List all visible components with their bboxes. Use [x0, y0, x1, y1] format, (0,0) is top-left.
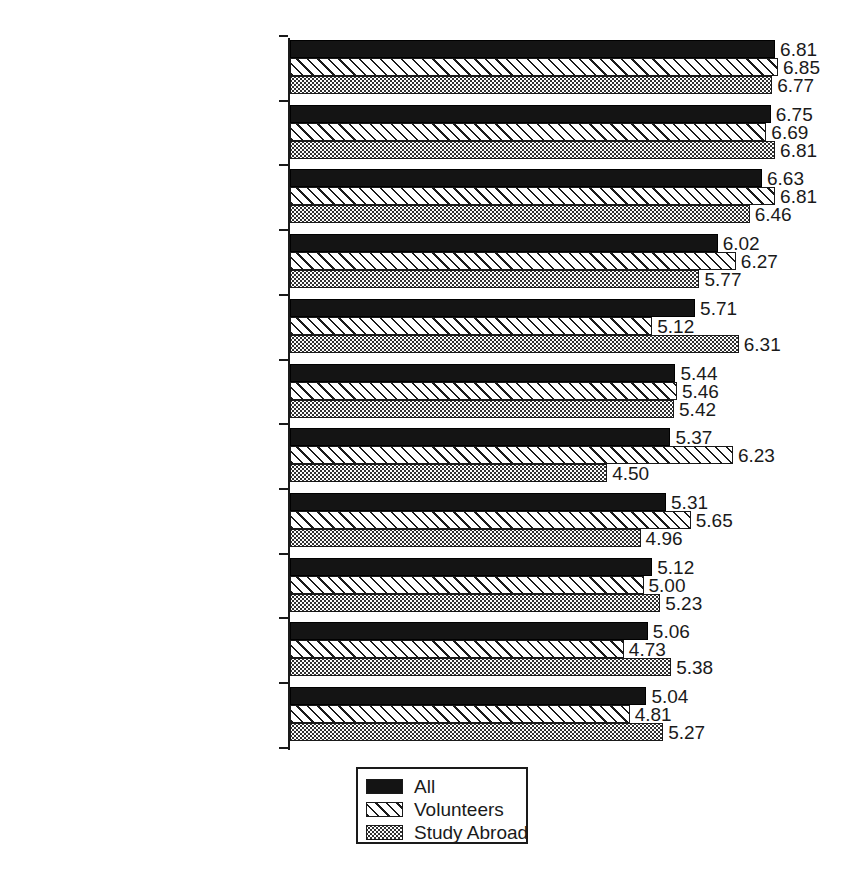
bar-row: 5.65	[290, 511, 862, 529]
bar-volunteers	[290, 187, 775, 205]
bar-row: 6.75	[290, 105, 862, 123]
bar-row: 5.44	[290, 364, 862, 382]
axis-tick	[279, 553, 288, 555]
bar-volunteers	[290, 576, 644, 594]
bar-study-abroad	[290, 141, 775, 159]
bar-value-label: 5.65	[691, 510, 733, 529]
bar-volunteers	[290, 317, 652, 335]
bar-group: To have new experiences6.816.856.77	[288, 40, 862, 94]
bar-group: To achieve over challenges5.064.735.38	[288, 622, 862, 676]
bar-row: 4.81	[290, 705, 862, 723]
legend-label: Volunteers	[414, 800, 504, 819]
bar-row: 6.46	[290, 205, 862, 223]
bar-study-abroad	[290, 335, 739, 353]
axis-tick	[279, 617, 288, 619]
axis-tick	[279, 423, 288, 425]
bar-chart: To have new experiences6.816.856.77To se…	[0, 0, 862, 884]
bar-study-abroad	[290, 594, 660, 612]
bar-value-label: 5.23	[660, 593, 702, 612]
bar-group: To escape from ordinary life5.125.005.23	[288, 558, 862, 612]
bar-all	[290, 622, 648, 640]
bar-row: 5.31	[290, 493, 862, 511]
bar-group: To develop skills5.044.815.27	[288, 687, 862, 741]
bar-study-abroad	[290, 464, 607, 482]
bar-value-label: 5.38	[671, 658, 713, 677]
bar-study-abroad	[290, 529, 641, 547]
bar-value-label: 4.96	[641, 528, 683, 547]
legend-label: Study Abroad	[414, 823, 528, 842]
plot-area: To have new experiences6.816.856.77To se…	[288, 38, 862, 750]
bar-volunteers	[290, 58, 778, 76]
bar-row: 5.12	[290, 317, 862, 335]
bar-all	[290, 687, 646, 705]
bar-row: 6.63	[290, 169, 862, 187]
bar-group: To 'grow' emotionally, spiritually, psyc…	[288, 493, 862, 547]
bar-row: 6.81	[290, 141, 862, 159]
bar-volunteers	[290, 252, 736, 270]
bar-all	[290, 364, 675, 382]
bar-all	[290, 493, 666, 511]
bar-volunteers	[290, 640, 624, 658]
bar-study-abroad	[290, 400, 674, 418]
bar-group: To see the world6.756.696.81	[288, 105, 862, 159]
bar-row: 6.77	[290, 76, 862, 94]
bar-row: 5.23	[290, 594, 862, 612]
axis-tick	[279, 164, 288, 166]
bar-row: 6.23	[290, 446, 862, 464]
bar-row: 5.27	[290, 723, 862, 741]
bar-value-label: 5.42	[674, 399, 716, 418]
bar-all	[290, 40, 775, 58]
bar-study-abroad	[290, 723, 663, 741]
bar-study-abroad	[290, 205, 750, 223]
bar-row: 5.42	[290, 400, 862, 418]
bar-value-label: 6.31	[739, 334, 781, 353]
bar-row: 6.81	[290, 187, 862, 205]
legend-items-container: AllVolunteersStudy Abroad	[366, 775, 526, 843]
bar-group: To have fun5.715.126.31	[288, 299, 862, 353]
axis-tick	[279, 747, 288, 749]
bar-volunteers	[290, 446, 733, 464]
bar-value-label: 4.73	[624, 640, 666, 659]
bar-row: 5.46	[290, 382, 862, 400]
bar-value-label: 6.46	[750, 205, 792, 224]
bar-study-abroad	[290, 658, 671, 676]
legend-swatch-study-abroad	[366, 825, 403, 840]
bar-value-label: 6.77	[772, 76, 814, 95]
legend-item: Study Abroad	[366, 821, 526, 843]
bar-study-abroad	[290, 76, 772, 94]
bar-value-label: 4.81	[630, 705, 672, 724]
bar-row: 4.73	[290, 640, 862, 658]
axis-tick	[279, 488, 288, 490]
legend-item: Volunteers	[366, 798, 526, 820]
axis-tick	[279, 359, 288, 361]
bar-row: 5.77	[290, 270, 862, 288]
bar-value-label: 6.27	[736, 252, 778, 271]
bar-row: 4.50	[290, 464, 862, 482]
bar-row: 6.02	[290, 234, 862, 252]
bar-value-label: 5.27	[663, 723, 705, 742]
axis-tick	[279, 100, 288, 102]
bar-group: To experience a new culture6.636.816.46	[288, 169, 862, 223]
bar-row: 6.31	[290, 335, 862, 353]
bar-row: 6.81	[290, 40, 862, 58]
bar-value-label: 5.12	[652, 316, 694, 335]
bar-row: 5.71	[290, 299, 862, 317]
bar-row: 4.96	[290, 529, 862, 547]
bar-volunteers	[290, 382, 677, 400]
bar-group: To give one a new perspective6.026.275.7…	[288, 234, 862, 288]
legend-swatch-all	[366, 779, 403, 794]
bar-group: To participate in local traditions/celeb…	[288, 364, 862, 418]
bar-all	[290, 558, 652, 576]
bar-value-label: 4.50	[607, 464, 649, 483]
legend-label: All	[414, 777, 435, 796]
bar-row: 5.37	[290, 428, 862, 446]
bar-group: To help others5.376.234.50	[288, 428, 862, 482]
bar-row: 6.69	[290, 123, 862, 141]
bar-volunteers	[290, 123, 766, 141]
bar-row: 5.12	[290, 558, 862, 576]
bar-row: 5.04	[290, 687, 862, 705]
bar-all	[290, 169, 762, 187]
bar-all	[290, 428, 670, 446]
legend-item: All	[366, 775, 526, 797]
bar-volunteers	[290, 705, 630, 723]
